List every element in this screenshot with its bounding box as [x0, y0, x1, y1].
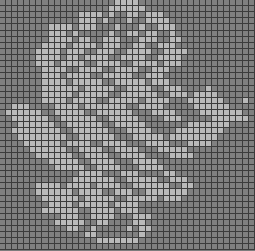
pixel-rose-canvas: [0, 0, 255, 251]
pixel-grid: [0, 0, 255, 250]
grid-cell: [249, 244, 255, 250]
